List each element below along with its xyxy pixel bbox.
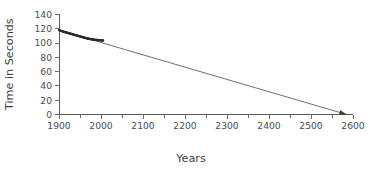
x-tick-label: 2100 — [131, 120, 155, 131]
x-axis-title: Years — [175, 152, 206, 165]
trend-arrowhead — [339, 110, 347, 115]
data-point — [102, 39, 104, 41]
x-tick-label: 1900 — [47, 120, 71, 131]
y-tick-label: 20 — [40, 95, 52, 106]
y-tick-label: 40 — [40, 80, 52, 91]
scatter-chart: Time in Seconds Years 020406080100120140… — [0, 0, 377, 180]
x-tick-label: 2400 — [257, 120, 281, 131]
data-points-group — [58, 29, 104, 42]
x-tick-label: 2000 — [89, 120, 113, 131]
trend-line — [59, 30, 347, 114]
x-tick-label: 2500 — [299, 120, 323, 131]
y-tick-label: 120 — [34, 23, 52, 34]
x-tick-label: 2300 — [215, 120, 239, 131]
chart-container: Time in Seconds Years 020406080100120140… — [0, 0, 377, 180]
y-tick-label: 0 — [46, 109, 52, 120]
y-tick-label: 60 — [40, 66, 52, 77]
x-tick-label: 2600 — [341, 120, 365, 131]
y-tick-label: 140 — [34, 9, 52, 20]
y-tick-label: 80 — [40, 52, 52, 63]
trend-line-group — [59, 30, 347, 115]
y-axis-ticks: 020406080100120140 — [34, 9, 59, 120]
x-tick-label: 2200 — [173, 120, 197, 131]
y-tick-label: 100 — [34, 37, 52, 48]
y-axis-title: Time in Seconds — [3, 18, 16, 111]
